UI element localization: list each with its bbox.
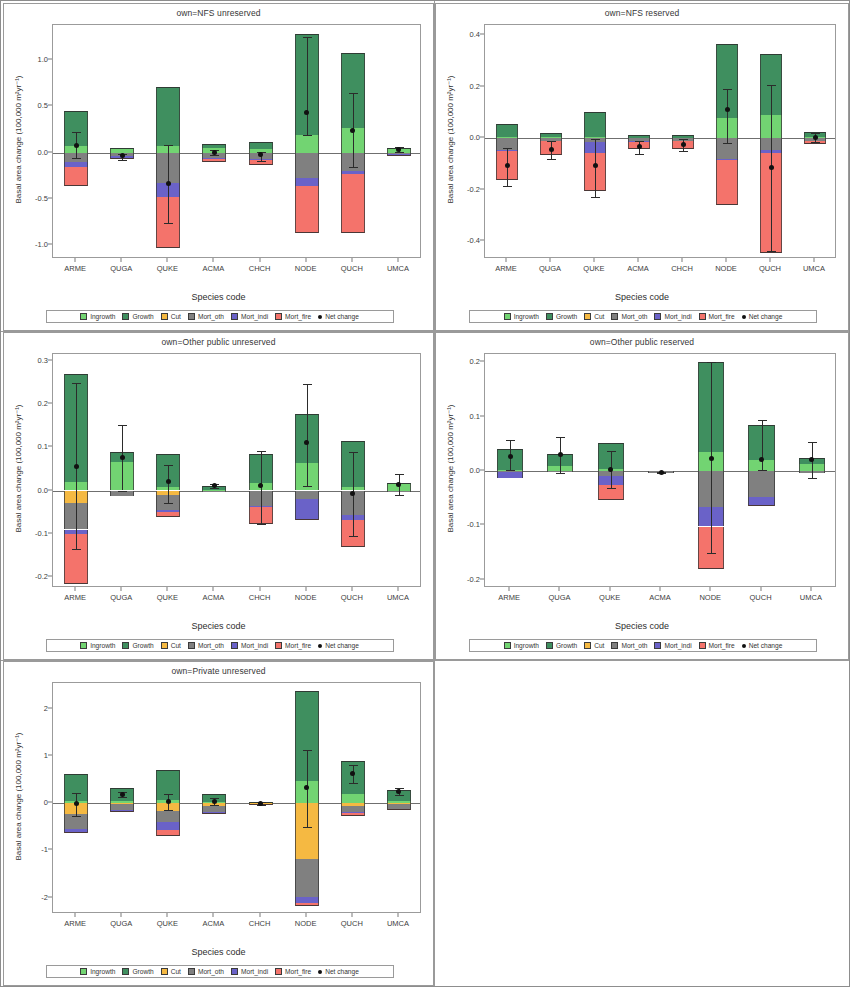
y-tick-label: 0.2 xyxy=(470,357,484,366)
legend-item-mort_oth: Mort_oth xyxy=(188,642,224,649)
x-tick-mark xyxy=(75,258,76,262)
x-tick-mark xyxy=(397,258,398,262)
panel-title: own=Other public reserved xyxy=(436,337,848,347)
bar-segment-ingrowth xyxy=(341,794,365,803)
legend-item-ingrowth: Ingrowth xyxy=(504,313,539,320)
bar-segment-mort_oth xyxy=(748,471,774,497)
x-tick-mark xyxy=(559,587,560,591)
y-axis-label: Basal area change (100,000 m²yr⁻¹) xyxy=(14,23,23,257)
legend-item-mort_fire: Mort_fire xyxy=(699,313,735,320)
net-change-point xyxy=(709,456,714,461)
legend-swatch-mort_oth xyxy=(188,968,195,975)
legend-swatch-cut xyxy=(584,642,591,649)
x-tick-mark xyxy=(305,258,306,262)
legend: IngrowthGrowthCutMort_othMort_indiMort_f… xyxy=(469,310,817,323)
legend-swatch-cut xyxy=(161,642,168,649)
legend-label: Mort_fire xyxy=(285,968,311,975)
error-bar-cap-lower xyxy=(303,135,312,136)
x-tick-label: ARME xyxy=(64,264,86,273)
legend-swatch-cut xyxy=(161,313,168,320)
legend-label: Mort_oth xyxy=(198,313,224,320)
x-tick-label: QUGA xyxy=(110,919,132,928)
error-bar-cap-upper xyxy=(257,451,266,452)
error-bar-cap-upper xyxy=(164,794,173,795)
error-bar-cap-lower xyxy=(635,154,644,155)
legend-label: Mort_fire xyxy=(709,642,735,649)
legend-item-mort_oth: Mort_oth xyxy=(188,313,224,320)
error-bar xyxy=(727,89,728,143)
x-tick-label: QUCH xyxy=(341,919,363,928)
legend-swatch-mort_oth xyxy=(188,642,195,649)
legend-swatch-ingrowth xyxy=(504,642,511,649)
stacked-bar xyxy=(387,25,411,258)
error-bar-cap-upper xyxy=(349,452,358,453)
stacked-bar xyxy=(249,25,273,258)
legend-item-growth: Growth xyxy=(122,313,153,320)
panel-title: own=Private unreserved xyxy=(4,666,433,676)
x-tick-mark xyxy=(121,258,122,262)
net-change-point xyxy=(558,452,563,457)
legend-swatch-cut xyxy=(584,313,591,320)
error-bar-cap-upper xyxy=(72,793,81,794)
x-tick-label: QUKE xyxy=(599,593,620,602)
y-tick-label: 0.1 xyxy=(38,442,52,451)
plot-frame xyxy=(484,353,836,587)
legend-swatch-mort_indi xyxy=(231,313,238,320)
legend-label: Mort_indi xyxy=(241,642,268,649)
error-bar-cap-upper xyxy=(164,465,173,466)
net-change-dot-icon xyxy=(742,315,746,319)
legend-label: Ingrowth xyxy=(90,968,115,975)
net-change-dot-icon xyxy=(742,644,746,648)
y-axis-label: Basal area change (100,000 m²yr⁻¹) xyxy=(446,23,455,257)
error-bar-cap-lower xyxy=(210,155,219,156)
bar-segment-mort_fire xyxy=(156,512,180,518)
x-tick-label: QUGA xyxy=(539,264,561,273)
x-tick-mark xyxy=(594,258,595,262)
y-tick-label: 0.0 xyxy=(38,485,52,494)
zero-line xyxy=(53,153,420,154)
net-change-point xyxy=(120,153,125,158)
bar-segment-mort_fire xyxy=(341,174,365,233)
legend-item-growth: Growth xyxy=(122,968,153,975)
legend-item-mort_indi: Mort_indi xyxy=(231,968,268,975)
x-tick-mark xyxy=(682,258,683,262)
legend: IngrowthGrowthCutMort_othMort_indiMort_f… xyxy=(46,965,394,978)
legend-swatch-mort_fire xyxy=(275,642,282,649)
legend-item-cut: Cut xyxy=(161,968,181,975)
y-tick-label: 0.0 xyxy=(470,466,484,475)
net-change-point xyxy=(74,143,79,148)
legend-label: Mort_indi xyxy=(664,313,691,320)
y-tick-label: 0.1 xyxy=(470,411,484,420)
x-axis-label: Species code xyxy=(4,292,433,302)
x-tick-label: QUKE xyxy=(157,593,178,602)
net-change-point xyxy=(74,801,79,806)
error-bar-cap-lower xyxy=(723,143,732,144)
error-bar-cap-upper xyxy=(503,148,512,149)
legend-swatch-growth xyxy=(122,642,129,649)
x-tick-mark xyxy=(609,587,610,591)
y-tick-label: 0.0 xyxy=(470,133,484,142)
error-bar-cap-upper xyxy=(723,89,732,90)
legend-swatch-mort_fire xyxy=(275,313,282,320)
panel-3: own=Other public unreserved0.30.20.10.0-… xyxy=(3,332,434,660)
x-tick-mark xyxy=(814,258,815,262)
net-change-point xyxy=(74,464,79,469)
x-tick-mark xyxy=(760,587,761,591)
error-bar-cap-upper xyxy=(118,425,127,426)
legend-item-mort_oth: Mort_oth xyxy=(188,968,224,975)
x-tick-mark xyxy=(213,587,214,591)
error-bar-cap-lower xyxy=(607,488,616,489)
x-tick-mark xyxy=(660,587,661,591)
error-bar-cap-lower xyxy=(257,161,266,162)
legend-item-ingrowth: Ingrowth xyxy=(80,642,115,649)
error-bar-cap-lower xyxy=(811,142,820,143)
x-tick-label: ACMA xyxy=(203,264,225,273)
bar-segment-mort_fire xyxy=(156,830,180,836)
legend-label: Mort_oth xyxy=(198,968,224,975)
x-tick-label: QUCH xyxy=(341,593,363,602)
y-tick-label: 0.2 xyxy=(470,81,484,90)
panel-5: own=Private unreserved210-1-2ARMEQUGAQUK… xyxy=(3,661,434,986)
bar-segment-growth xyxy=(156,87,180,146)
zero-line xyxy=(53,491,420,492)
error-bar-cap-lower xyxy=(72,158,81,159)
